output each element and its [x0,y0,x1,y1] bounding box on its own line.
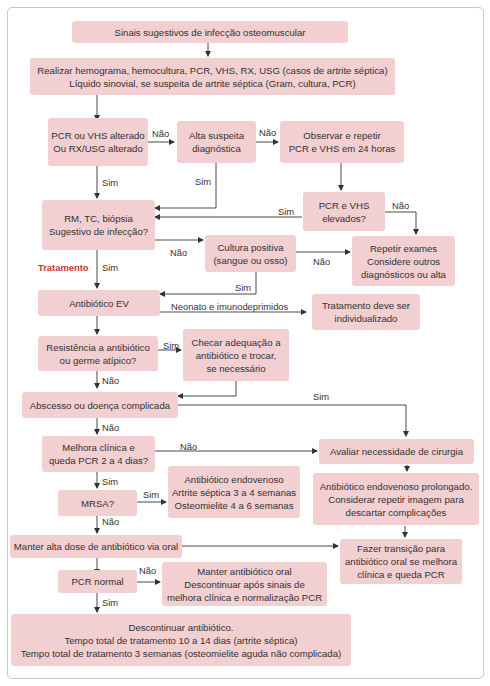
node-culture-positive: Cultura positiva (sangue ou osso) [205,235,296,272]
label-yes: Sim [102,597,118,608]
label-yes: Sim [163,340,179,351]
label-no: Não [102,375,119,386]
node-repeat-exams: Repetir exames Considere outros diagnóst… [352,236,455,286]
node-maintain-oral: Manter antibiótico oral Descontinuar apó… [162,562,327,606]
label-yes: Sim [278,206,294,217]
label-no: Não [102,422,119,433]
node-individualized: Tratamento deve ser individualizado [312,294,420,330]
node-prolonged-iv: Antibiótico endovenoso prolongado. Consi… [313,473,479,525]
node-mrsa: MRSA? [58,490,137,516]
label-yes: Sim [102,177,118,188]
node-clinical-improvement: Melhora clínica e queda PCR 2 a 4 dias? [42,436,155,472]
label-yes: Sim [313,391,329,402]
label-no: Não [392,200,409,211]
label-no: Não [152,128,169,139]
node-iv-antibiotic: Antibiótico EV [38,290,160,316]
node-start: Sinais sugestivos de infecção osteomuscu… [72,21,348,43]
label-yes: Sim [195,176,211,187]
label-no: Não [170,247,187,258]
node-observe-repeat: Observar e repetir PCR e VHS em 24 horas [280,121,404,163]
node-abscess: Abscesso ou doença complicada [22,392,178,418]
label-no: Não [313,256,330,267]
label-neonates: Neonato e imunodeprimidos [171,301,288,312]
label-no: Não [102,516,119,527]
label-yes: Sim [102,476,118,487]
label-no: Não [180,441,197,452]
node-resistance: Resistência a antibiótico ou germe atípi… [38,336,158,371]
node-pcr-vhs-elevated: PCR e VHS elevados? [303,192,385,231]
node-check-adequacy: Checar adequação a antibiótico e trocar,… [183,329,289,381]
label-yes: Sim [235,282,251,293]
node-high-dose-oral: Manter alta dose de antibiótico via oral [10,535,182,558]
node-imaging: RM, TC, biópsia Sugestivo de infecção? [42,200,155,250]
label-yes: Sim [143,489,159,500]
label-no: Não [259,127,276,138]
node-high-suspicion: Alta suspeita diagnóstica [177,121,256,163]
node-pcr-vhs-altered: PCR ou VHS alterado Ou RX/USG alterado [48,118,148,166]
node-pcr-normal: PCR normal [58,570,137,593]
node-oral-transition: Fazer transição para antibiótico oral se… [340,539,462,584]
label-treatment: Tratamento [38,262,89,273]
node-iv-duration: Antibiótico endovenoso Artrite séptica 3… [168,466,300,518]
node-discontinue: Descontinuar antibiótico. Tempo total de… [11,614,351,666]
node-evaluate-surgery: Avaliar necessidade de cirurgia [319,439,474,464]
node-initial-exams: Realizar hemograma, hemocultura, PCR, VH… [30,58,395,95]
label-yes: Sim [102,262,118,273]
label-no: Não [139,565,156,576]
